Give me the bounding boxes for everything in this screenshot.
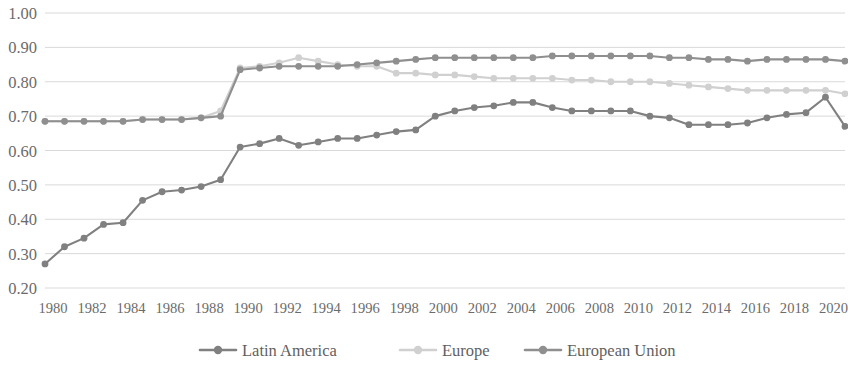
data-point-marker [627, 108, 634, 115]
data-point-marker [412, 56, 419, 63]
data-point-marker [490, 54, 497, 61]
data-point-marker [237, 66, 244, 73]
data-point-marker [61, 118, 68, 125]
series-line [45, 97, 845, 264]
legend-item-latin-america[interactable]: Latin America [200, 341, 338, 360]
data-point-marker [412, 70, 419, 77]
data-point-marker [412, 126, 419, 133]
x-axis-tick-label: 2008 [585, 300, 614, 316]
data-point-marker [588, 77, 595, 84]
data-point-marker [529, 99, 536, 106]
data-point-marker [783, 87, 790, 94]
data-point-marker [646, 53, 653, 60]
data-point-marker [81, 235, 88, 242]
data-point-marker [100, 221, 107, 228]
x-axis-tick-label: 2010 [624, 300, 653, 316]
data-point-marker [764, 87, 771, 94]
data-point-marker [744, 120, 751, 127]
data-point-marker [276, 63, 283, 70]
data-point-marker [803, 109, 810, 116]
data-point-marker [490, 75, 497, 82]
data-point-marker [159, 188, 166, 195]
data-point-marker [725, 85, 732, 92]
data-point-marker [842, 90, 848, 97]
data-point-marker [354, 135, 361, 142]
data-point-marker [471, 54, 478, 61]
data-point-marker [393, 128, 400, 135]
legend-item-european-union[interactable]: European Union [525, 341, 676, 360]
data-point-marker [334, 63, 341, 70]
gridlines-group [45, 13, 845, 288]
legend-item-europe[interactable]: Europe [400, 341, 490, 360]
data-point-marker [237, 144, 244, 151]
data-point-marker [607, 108, 614, 115]
x-axis-tick-label: 1988 [195, 300, 224, 316]
x-axis-tick-label: 2016 [741, 300, 770, 316]
legend-label: Latin America [242, 341, 338, 360]
x-axis-tick-label: 1982 [77, 300, 106, 316]
data-point-marker [120, 118, 127, 125]
x-axis-tick-label: 2006 [546, 300, 575, 316]
data-point-marker [549, 75, 556, 82]
data-point-marker [198, 183, 205, 190]
chart-canvas: 1.000.900.800.700.600.500.400.300.20 198… [0, 0, 848, 366]
data-point-marker [295, 63, 302, 70]
x-axis-tick-label: 2004 [507, 300, 537, 316]
data-point-marker [607, 53, 614, 60]
data-point-marker [627, 53, 634, 60]
data-point-marker [842, 58, 848, 65]
y-axis-tick-label: 0.90 [8, 38, 37, 57]
x-axis-tick-label: 2002 [468, 300, 497, 316]
x-axis-tick-label: 1998 [390, 300, 419, 316]
data-point-marker [432, 71, 439, 78]
data-point-marker [686, 82, 693, 89]
x-axis-tick-label: 1994 [312, 300, 342, 316]
data-point-marker [510, 75, 517, 82]
data-point-marker [451, 71, 458, 78]
data-point-marker [120, 219, 127, 226]
data-point-marker [607, 78, 614, 85]
data-point-marker [764, 114, 771, 121]
data-point-marker [627, 78, 634, 85]
data-point-marker [295, 142, 302, 149]
data-point-marker [510, 54, 517, 61]
data-point-marker [451, 54, 458, 61]
x-axis-tick-label: 1984 [116, 300, 146, 316]
legend-label: European Union [567, 341, 676, 360]
data-point-marker [295, 54, 302, 61]
data-point-marker [666, 114, 673, 121]
data-point-marker [725, 121, 732, 128]
legend-swatch-marker [414, 346, 422, 354]
data-point-marker [393, 58, 400, 65]
y-axis-tick-label: 0.30 [8, 245, 37, 264]
data-point-marker [510, 99, 517, 106]
data-point-marker [81, 118, 88, 125]
x-axis-tick-label: 1980 [38, 300, 67, 316]
data-point-marker [159, 116, 166, 123]
data-point-marker [744, 87, 751, 94]
y-axis-tick-label: 0.40 [8, 210, 37, 229]
data-point-marker [686, 54, 693, 61]
data-point-marker [822, 94, 829, 101]
data-point-marker [61, 243, 68, 250]
data-point-marker [822, 87, 829, 94]
series-group [42, 53, 848, 268]
data-point-marker [568, 53, 575, 60]
data-point-marker [354, 61, 361, 68]
x-axis-tick-label: 2018 [780, 300, 809, 316]
data-point-marker [315, 63, 322, 70]
x-axis-labels-group: 1980198219841986198819901992199419961998… [38, 300, 848, 316]
data-point-marker [217, 113, 224, 120]
legend-swatch-marker [539, 346, 547, 354]
data-point-marker [549, 53, 556, 60]
data-point-marker [666, 54, 673, 61]
data-point-marker [568, 108, 575, 115]
data-point-marker [783, 111, 790, 118]
x-axis-tick-label: 1996 [351, 300, 380, 316]
data-point-marker [471, 73, 478, 80]
data-point-marker [549, 104, 556, 111]
data-point-marker [432, 54, 439, 61]
chart-legend: Latin AmericaEuropeEuropean Union [200, 341, 676, 360]
data-point-marker [803, 87, 810, 94]
data-point-marker [705, 56, 712, 63]
